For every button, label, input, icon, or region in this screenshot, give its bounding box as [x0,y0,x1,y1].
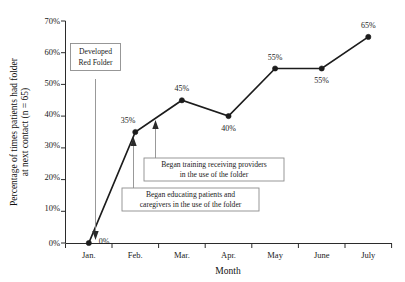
data-point-may [273,66,278,71]
callout-educating-line2: caregivers in the use of the folder [140,200,242,209]
x-tick-label-july: July [361,250,376,260]
y-tick-label-0: 0% [49,238,60,248]
y-tick-label-20: 20% [44,172,60,182]
x-tick-label-jan: Jan. [82,250,95,260]
callout-developed-line1: Developed [79,47,112,56]
callout-developed-line2: Red Folder [79,58,113,67]
callout-training-arrowhead [152,120,158,129]
y-tick-label-30: 30% [44,140,60,150]
data-label-june: 55% [314,76,329,85]
line-chart-figure: Percentage of times patients had folder … [0,0,405,282]
y-tick-label-40: 40% [44,109,60,119]
x-tick-label-june: June [314,250,330,260]
data-label-jan: 0% [99,237,110,246]
data-point-apr [226,114,231,119]
data-label-july: 65% [361,21,376,30]
x-tick-label-may: May [267,250,283,260]
x-tick-label-apr: Apr. [221,250,236,260]
data-label-feb: 35% [121,116,136,125]
data-label-mar: 45% [175,84,190,93]
x-axis-title: Month [215,266,241,276]
y-tick-label-10: 10% [44,203,60,213]
y-tick-label-60: 60% [44,47,60,57]
data-point-jan [86,240,91,245]
y-tick-label-70: 70% [44,16,60,26]
data-series-line [89,37,369,243]
callout-began-training: Began training receiving providers in th… [144,120,284,181]
callout-educating-line1: Began educating patients and [146,190,235,199]
y-axis-title-line1: Percentage of times patients had folder [9,57,19,206]
data-label-may: 55% [268,53,283,62]
callout-developed-red-folder: Developed Red Folder [71,44,121,241]
data-point-june [319,66,324,71]
data-point-july [366,34,371,39]
x-tick-label-mar: Mar. [174,250,190,260]
callout-training-line1: Began training receiving providers [161,160,267,169]
y-tick-label-50: 50% [44,78,60,88]
y-axis-title-line2: at next contact (n = 65) [20,88,31,176]
data-point-mar [179,98,184,103]
data-label-apr: 40% [221,124,236,133]
data-point-feb [133,129,138,134]
x-tick-label-feb: Feb. [128,250,143,260]
callout-training-line2: in the use of the folder [180,170,249,179]
